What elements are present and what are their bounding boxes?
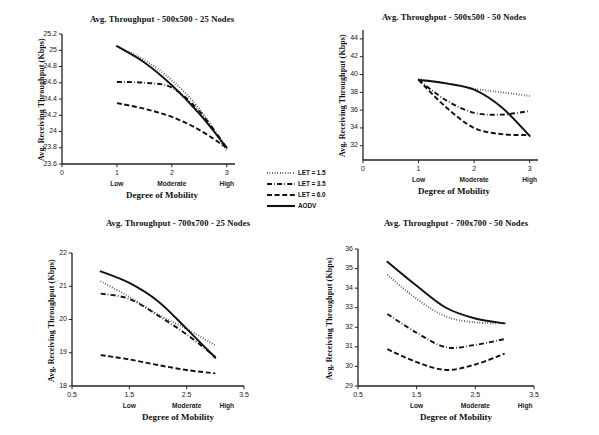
y-tick-label: 38 <box>331 88 358 95</box>
y-tick-label: 25 <box>30 46 57 53</box>
legend: LET = 1.5LET = 3.5LET = 6.0AODV <box>266 167 325 211</box>
x-tick-label: 3.5 <box>228 391 260 398</box>
y-tick-label: 35 <box>326 264 353 271</box>
legend-label: LET = 3.5 <box>298 180 325 187</box>
x-tick-label: 2 <box>458 165 490 172</box>
legend-item[interactable]: LET = 6.0 <box>266 189 325 200</box>
series-line-dash-dot <box>387 314 504 348</box>
series-line-solid <box>117 46 227 148</box>
legend-label: AODV <box>298 202 316 209</box>
y-tick-label: 32 <box>326 323 353 330</box>
x-axis-label: Degree of Mobility <box>40 412 316 422</box>
x-category-label: High <box>205 180 249 187</box>
chart-panel-br: Avg. Throughput - 700x700 - 50 NodesAvg.… <box>320 218 592 433</box>
series-line-dashed <box>419 80 530 135</box>
x-tick-label: 2.5 <box>459 391 491 398</box>
y-tick-label: 34 <box>326 284 353 291</box>
y-tick-label: 20 <box>40 315 67 322</box>
y-tick-label: 24.8 <box>30 62 57 69</box>
legend-swatch-dotted <box>266 169 296 177</box>
y-tick-label: 31 <box>326 342 353 349</box>
x-tick-label: 1 <box>101 169 133 176</box>
series-line-dotted <box>387 275 504 324</box>
x-tick-label: 0 <box>46 169 78 176</box>
x-tick-label: 1.5 <box>113 391 145 398</box>
x-axis-label: Degree of Mobility <box>28 190 296 200</box>
x-axis-label: Degree of Mobility <box>320 412 592 422</box>
y-tick-label: 24 <box>30 127 57 134</box>
x-tick-label: 1 <box>403 165 435 172</box>
legend-item[interactable]: LET = 3.5 <box>266 178 325 189</box>
x-axis-label: Degree of Mobility <box>318 186 590 196</box>
y-tick-label: 34 <box>331 123 358 130</box>
chart-panel-tl: Avg. Throughput - 500x500 - 25 NodesAvg.… <box>28 14 296 206</box>
x-tick-label: 2 <box>156 169 188 176</box>
legend-swatch-dash-dot <box>266 180 296 188</box>
y-tick-label: 32 <box>331 141 358 148</box>
x-category-label: Low <box>395 402 439 409</box>
x-category-label: High <box>205 402 249 409</box>
y-tick-label: 36 <box>326 245 353 252</box>
y-tick-label: 24.4 <box>30 95 57 102</box>
legend-swatch-solid <box>266 202 296 210</box>
series-line-dashed <box>387 349 504 370</box>
y-tick-label: 23.8 <box>30 143 57 150</box>
legend-label: LET = 6.0 <box>298 191 325 198</box>
legend-label: LET = 1.5 <box>298 169 325 176</box>
y-tick-label: 23.6 <box>30 160 57 167</box>
x-category-label: Moderate <box>452 176 496 183</box>
plot-area <box>28 14 296 206</box>
series-line-dash-dot <box>101 294 216 357</box>
x-tick-label: 0.5 <box>342 391 374 398</box>
y-tick-label: 19 <box>40 348 67 355</box>
y-tick-label: 25.2 <box>30 30 57 37</box>
x-category-label: High <box>508 176 552 183</box>
chart-panel-bl: Avg. Throughput - 700x700 - 25 NodesAvg.… <box>40 218 316 433</box>
series-line-dashed <box>101 355 216 373</box>
y-tick-label: 42 <box>331 52 358 59</box>
series-line-solid <box>419 80 530 136</box>
x-tick-label: 0.5 <box>56 391 88 398</box>
y-tick-label: 40 <box>331 70 358 77</box>
x-tick-label: 3 <box>514 165 546 172</box>
x-tick-label: 1.5 <box>401 391 433 398</box>
y-tick-label: 22 <box>40 249 67 256</box>
y-tick-label: 24.6 <box>30 78 57 85</box>
series-line-solid <box>387 262 504 324</box>
x-tick-label: 2.5 <box>171 391 203 398</box>
chart-panel-tr: Avg. Throughput - 500x500 - 50 NodesAvg.… <box>318 12 590 206</box>
x-category-label: Low <box>107 402 151 409</box>
y-tick-label: 30 <box>326 362 353 369</box>
series-line-dotted <box>101 281 216 345</box>
y-tick-label: 29 <box>326 382 353 389</box>
x-category-label: High <box>503 402 547 409</box>
legend-item[interactable]: AODV <box>266 200 325 211</box>
series-line-dotted <box>117 46 227 151</box>
legend-swatch-dashed <box>266 191 296 199</box>
plot-area <box>320 218 592 433</box>
series-line-dash-dot <box>117 82 227 148</box>
x-category-label: Low <box>95 180 139 187</box>
x-category-label: Moderate <box>150 180 194 187</box>
y-tick-label: 18 <box>40 382 67 389</box>
x-category-label: Moderate <box>453 402 497 409</box>
x-tick-label: 3.5 <box>518 391 550 398</box>
y-tick-label: 24.2 <box>30 111 57 118</box>
y-tick-label: 44 <box>331 34 358 41</box>
x-tick-label: 3 <box>211 169 243 176</box>
plot-area <box>40 218 316 433</box>
y-tick-label: 36 <box>331 106 358 113</box>
x-tick-label: 0 <box>347 165 379 172</box>
y-tick-label: 21 <box>40 282 67 289</box>
x-category-label: Moderate <box>165 402 209 409</box>
y-tick-label: 33 <box>326 303 353 310</box>
legend-item[interactable]: LET = 1.5 <box>266 167 325 178</box>
x-category-label: Low <box>397 176 441 183</box>
